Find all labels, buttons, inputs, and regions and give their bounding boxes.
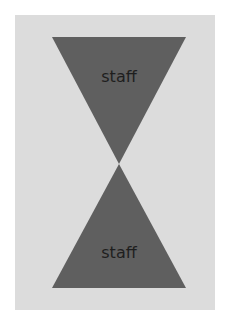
hourglass-diagram: staff staff (0, 0, 229, 329)
bottom-triangle-label: staff (79, 243, 159, 263)
top-triangle (52, 37, 186, 164)
hourglass-shapes (0, 0, 229, 329)
bottom-triangle (52, 164, 186, 288)
top-triangle-label: staff (79, 67, 159, 87)
